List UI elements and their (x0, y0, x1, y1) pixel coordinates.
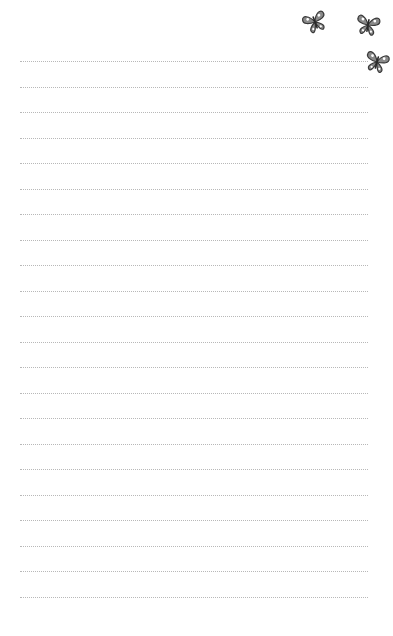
ruled-line (20, 571, 368, 572)
ruled-line (20, 265, 368, 266)
ruled-line (20, 163, 368, 164)
ruled-line (20, 87, 368, 88)
ruled-line (20, 469, 368, 470)
ruled-line (20, 138, 368, 139)
ruled-line (20, 342, 368, 343)
ruled-line (20, 520, 368, 521)
ruled-line (20, 597, 368, 598)
butterfly-icon (353, 11, 383, 39)
butterfly-icon (361, 47, 392, 77)
ruled-line (20, 189, 368, 190)
ruled-line (20, 291, 368, 292)
ruled-line (20, 316, 368, 317)
ruled-line (20, 393, 368, 394)
ruled-line (20, 61, 368, 62)
ruled-line (20, 112, 368, 113)
ruled-line (20, 444, 368, 445)
butterfly-icon (299, 6, 332, 37)
ruled-line (20, 240, 368, 241)
ruled-line (20, 214, 368, 215)
ruled-line (20, 495, 368, 496)
ruled-line (20, 367, 368, 368)
ruled-line (20, 418, 368, 419)
ruled-line (20, 546, 368, 547)
